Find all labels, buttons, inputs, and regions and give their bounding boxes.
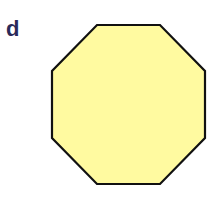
octagon-diagram [0, 0, 218, 197]
octagon-shape [52, 25, 205, 184]
